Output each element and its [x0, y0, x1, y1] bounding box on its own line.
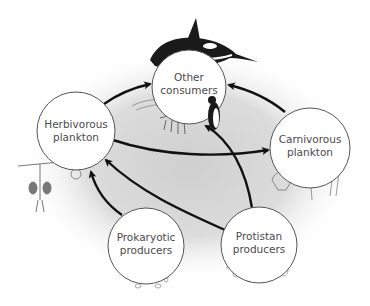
label-line-1: Herbivorous — [44, 118, 108, 131]
label-protistan-producers: Protistan producers — [233, 230, 286, 256]
label-herbivorous-plankton: Herbivorous plankton — [44, 118, 108, 144]
label-line-1: Protistan — [233, 230, 286, 243]
label-line-1: Other — [160, 71, 217, 84]
label-line-2: plankton — [44, 131, 108, 144]
label-other-consumers: Other consumers — [160, 71, 217, 97]
label-line-2: producers — [117, 244, 176, 257]
label-carnivorous-plankton: Carnivorous plankton — [279, 133, 342, 159]
label-line-1: Prokaryotic — [117, 231, 176, 244]
label-line-1: Carnivorous — [279, 133, 342, 146]
food-web-diagram: Other consumers Herbivorous plankton Car… — [0, 0, 370, 306]
label-line-2: producers — [233, 243, 286, 256]
label-line-2: consumers — [160, 84, 217, 97]
label-prokaryotic-producers: Prokaryotic producers — [117, 231, 176, 257]
label-line-2: plankton — [279, 146, 342, 159]
